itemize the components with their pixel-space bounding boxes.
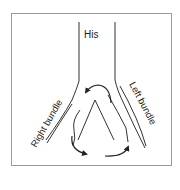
septum-v xyxy=(78,100,114,140)
bundle-branch-reentry-diagram: His Right bundle Left bundle xyxy=(0,0,180,190)
right-bundle-inner xyxy=(73,110,80,146)
diagram-canvas: His Right bundle Left bundle xyxy=(0,0,180,190)
left-bundle-label: Left bundle xyxy=(127,80,159,127)
reentry-arrow-top-icon xyxy=(86,85,111,103)
reentry-arrow-bottom-right-icon xyxy=(105,147,128,156)
his-label: His xyxy=(84,29,98,40)
